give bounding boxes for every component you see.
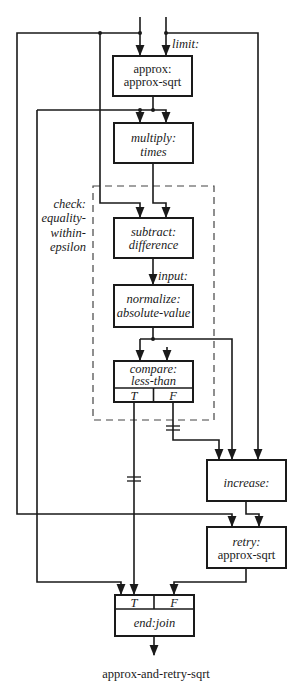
- svg-text:check:: check:: [53, 197, 86, 211]
- wire-multiply-to-subtract: [153, 163, 166, 217]
- check-group-label: check: equality- within- epsilon: [42, 197, 86, 254]
- end-false-port: F: [169, 596, 178, 610]
- svg-text:increase:: increase:: [223, 476, 269, 490]
- svg-text:difference: difference: [129, 238, 179, 252]
- wire-x-to-retry: [17, 33, 232, 526]
- node-subtract: subtract: difference: [114, 218, 193, 258]
- svg-text:less-than: less-than: [131, 374, 176, 388]
- node-normalize: normalize: absolute-value: [114, 285, 193, 327]
- svg-text:approx-sqrt: approx-sqrt: [124, 75, 182, 89]
- svg-text:absolute-value: absolute-value: [117, 306, 191, 320]
- svg-text:multiply:: multiply:: [131, 131, 176, 145]
- node-increase: increase:: [207, 460, 286, 501]
- wire-approx-to-end-false: [37, 110, 121, 594]
- end-true-port: T: [131, 596, 139, 610]
- node-compare: compare: less-than T F: [114, 361, 193, 403]
- output-label: approx-and-retry-sqrt: [102, 667, 210, 681]
- svg-text:times: times: [140, 145, 167, 159]
- wire-increase-to-retry: [246, 501, 259, 526]
- input-label: input:: [158, 269, 188, 283]
- svg-text:within-: within-: [51, 226, 86, 240]
- node-retry: retry: approx-sqrt: [207, 527, 286, 568]
- svg-text:approx:: approx:: [133, 62, 171, 76]
- svg-text:approx-sqrt: approx-sqrt: [218, 548, 276, 562]
- node-approx: approx: approx-sqrt: [113, 56, 192, 96]
- compare-false-port: F: [168, 389, 177, 403]
- svg-text:epsilon: epsilon: [50, 240, 86, 254]
- svg-text:normalize:: normalize:: [126, 292, 180, 306]
- compare-true-port: T: [131, 389, 139, 403]
- dataflow-diagram: check: equality- within- epsilon: [0, 0, 302, 694]
- svg-text:retry:: retry:: [233, 535, 261, 549]
- node-multiply: multiply: times: [114, 123, 193, 163]
- wire-approx-bus: [37, 110, 166, 122]
- wire-retry-to-end: [174, 568, 246, 594]
- node-end-join: T F end:join: [115, 595, 194, 636]
- svg-text:equality-: equality-: [42, 211, 86, 225]
- limit-label: limit:: [172, 37, 199, 51]
- svg-text:end:join: end:join: [134, 616, 176, 630]
- svg-text:subtract:: subtract:: [131, 225, 176, 239]
